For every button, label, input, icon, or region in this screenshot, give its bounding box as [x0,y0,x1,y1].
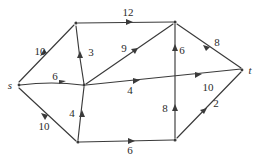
edge-b-to-t [86,69,241,85]
edge-b-to-d [86,24,173,84]
graph-canvas [0,0,262,160]
edge-label-mid-t: 10 [203,82,214,93]
edge-s-to-b [20,80,82,85]
edge-label-s-c: 10 [39,121,50,132]
edge-label-e-d-bottom: 8 [162,103,168,114]
edge-label-e-t: 2 [213,98,219,109]
edge-label-s-a: 10 [35,46,46,57]
edge-label-c-b: 4 [69,108,75,119]
edge-label-a-d: 12 [123,7,134,18]
node-d [173,20,176,23]
edge-a-to-d [78,19,173,25]
edge-label-s-b: 6 [52,71,58,82]
node-t [241,69,244,72]
node-c [76,140,79,143]
node-label-t: t [248,65,251,76]
node-a [74,21,77,24]
node-b [82,83,85,86]
edge-s-to-c [19,88,76,141]
edge-label-b-a: 3 [88,47,94,58]
edge-label-b-mid: 4 [127,85,133,96]
edge-label-b-d: 9 [121,43,127,54]
edge-d-to-t [177,24,241,68]
edge-label-e-d-top: 6 [179,45,185,56]
edge-label-c-e: 6 [127,145,133,156]
edge-label-d-t: 8 [214,37,220,48]
flow-network-diagram: s t 10 6 10 3 4 12 9 4 10 6 8 6 8 2 [0,0,262,160]
edge-e-to-d [172,24,178,138]
edge-s-to-a [19,25,74,82]
node-s [18,84,21,87]
node-label-s: s [8,80,12,91]
node-e [173,138,176,141]
edge-c-to-b [78,87,85,140]
edge-b-to-a [76,26,84,84]
